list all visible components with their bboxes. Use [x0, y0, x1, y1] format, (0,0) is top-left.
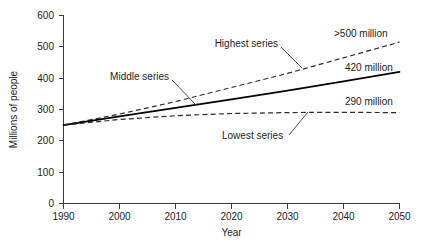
leader-line-lowest: [289, 112, 308, 135]
y-tick-label-300: 300: [37, 104, 54, 115]
x-tick-label-2040: 2040: [332, 211, 355, 222]
y-tick-label-100: 100: [37, 167, 54, 178]
x-tick-label-1990: 1990: [52, 211, 75, 222]
series-line-lowest: [64, 112, 400, 125]
x-tick-label-2050: 2050: [388, 211, 411, 222]
x-tick-label-2010: 2010: [164, 211, 187, 222]
series-group: [64, 42, 400, 125]
population-projection-chart: 0 100 200 300 400 500 600 1990 2000 2010…: [0, 0, 427, 250]
leader-line-middle: [172, 80, 196, 105]
value-label-lowest: 290 million: [345, 96, 393, 107]
y-axis-title: Millions of people: [8, 70, 19, 148]
y-tick-label-400: 400: [37, 73, 54, 84]
leader-line-highest: [281, 47, 302, 68]
x-tick-label-2030: 2030: [276, 211, 299, 222]
y-tick-label-500: 500: [37, 41, 54, 52]
value-label-highest: >500 million: [334, 28, 388, 39]
annotation-middle-series: Middle series: [110, 71, 169, 82]
series-line-highest: [64, 42, 400, 125]
y-axis-ticks: 0 100 200 300 400 500 600: [37, 10, 63, 209]
x-tick-label-2020: 2020: [220, 211, 243, 222]
annotation-highest-series: Highest series: [215, 38, 278, 49]
y-tick-label-600: 600: [37, 10, 54, 21]
y-tick-label-200: 200: [37, 135, 54, 146]
x-tick-label-2000: 2000: [108, 211, 131, 222]
value-label-middle: 420 million: [345, 62, 393, 73]
annotations-group: Highest series Middle series Lowest seri…: [110, 28, 393, 141]
y-tick-label-0: 0: [48, 198, 54, 209]
x-axis-title: Year: [221, 227, 242, 238]
x-axis-ticks: 1990 2000 2010 2020 2030 2040 2050: [52, 204, 411, 223]
annotation-lowest-series: Lowest series: [222, 130, 283, 141]
chart-canvas: 0 100 200 300 400 500 600 1990 2000 2010…: [0, 0, 427, 250]
